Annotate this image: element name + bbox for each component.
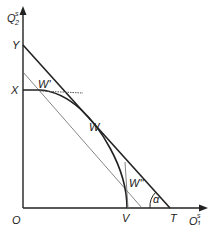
point-W-double-prime-label: W'': [129, 177, 144, 189]
point-W-label: W: [89, 121, 101, 133]
point-W-prime-label: W': [38, 78, 51, 90]
angle-alpha-label: α: [153, 193, 160, 205]
tangent-at-W-prime: [40, 91, 83, 93]
axes: [20, 6, 209, 212]
point-Y-label: Y: [12, 39, 20, 51]
y-axis-label-sub: 2: [14, 19, 19, 26]
point-V-label: V: [122, 212, 131, 224]
x-axis-arrow-icon: [199, 205, 208, 212]
y-axis-label-sup: s: [15, 10, 19, 17]
y-axis-arrow-icon: [20, 6, 27, 15]
x-axis-label-sub: 1: [197, 220, 201, 225]
origin-label: O: [12, 214, 21, 225]
point-T-label: T: [170, 212, 178, 224]
point-X-label: X: [10, 84, 19, 96]
ppf-curve: [23, 90, 127, 208]
production-possibility-diagram: Q s 2 Q s 1 O Y X W' W W'' V T α: [0, 0, 218, 225]
labels: Q s 2 Q s 1 O Y X W' W W'' V T α: [7, 10, 201, 225]
x-axis-label-sup: s: [197, 212, 201, 219]
